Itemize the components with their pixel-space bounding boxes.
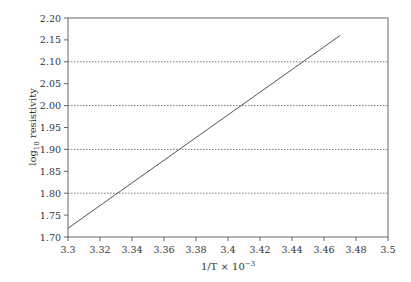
x-tick-label: 3.42 xyxy=(249,244,270,255)
y-tick-label: 1.90 xyxy=(40,144,61,155)
x-tick-label: 3.5 xyxy=(380,244,395,255)
y-tick-label: 2.05 xyxy=(40,78,61,89)
x-axis-ticks: 3.33.323.343.363.383.43.423.443.463.483.… xyxy=(60,237,395,255)
y-tick-label: 1.75 xyxy=(40,210,61,221)
x-tick-label: 3.3 xyxy=(60,244,75,255)
y-tick-label: 2.10 xyxy=(40,56,61,67)
gridlines xyxy=(68,62,388,193)
data-line xyxy=(68,36,340,229)
y-tick-label: 2.15 xyxy=(40,34,61,45)
x-tick-label: 3.38 xyxy=(185,244,206,255)
x-tick-label: 3.34 xyxy=(121,244,142,255)
x-tick-label: 3.46 xyxy=(313,244,334,255)
x-tick-label: 3.44 xyxy=(281,244,302,255)
chart: 3.33.323.343.363.383.43.423.443.463.483.… xyxy=(0,0,411,282)
y-tick-label: 1.70 xyxy=(40,232,61,243)
x-tick-label: 3.36 xyxy=(153,244,174,255)
x-tick-label: 3.48 xyxy=(345,244,366,255)
x-tick-label: 3.32 xyxy=(89,244,110,255)
y-tick-label: 1.85 xyxy=(40,166,61,177)
y-axis-ticks: 1.701.751.801.851.901.952.002.052.102.15… xyxy=(40,13,68,243)
y-tick-label: 1.80 xyxy=(40,188,61,199)
y-tick-label: 2.20 xyxy=(40,13,61,24)
x-tick-label: 3.4 xyxy=(220,244,235,255)
y-tick-label: 2.00 xyxy=(40,100,61,111)
plot-frame xyxy=(68,18,388,237)
x-axis-title: 1/T × 10−3 xyxy=(201,260,255,272)
y-tick-label: 1.95 xyxy=(40,122,61,133)
